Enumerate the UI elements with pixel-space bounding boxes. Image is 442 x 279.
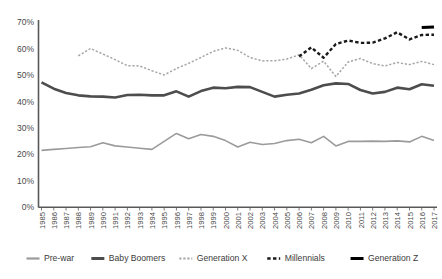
x-tick-label: 2011 [357, 212, 366, 228]
x-tick-label: 2013 [381, 212, 390, 229]
x-tick-label: 1986 [50, 212, 59, 229]
y-axis-tick-labels: 0%10%20%30%40%50%60%70% [17, 17, 34, 212]
x-tick-label: 2014 [393, 212, 402, 229]
x-tick-label: 2007 [307, 212, 316, 229]
x-tick-label: 1990 [99, 212, 108, 229]
x-tick-label: 1996 [173, 212, 182, 229]
x-tick-label: 1999 [209, 212, 218, 229]
y-tick-label: 0% [22, 202, 35, 212]
series-line-millennials [299, 32, 434, 57]
x-tick-label: 2006 [295, 212, 304, 229]
chart-container: 0%10%20%30%40%50%60%70% 1985198619871988… [0, 0, 442, 279]
x-tick-label: 2003 [258, 212, 267, 229]
line-chart: 0%10%20%30%40%50%60%70% 1985198619871988… [0, 0, 442, 279]
series-line-generation-x [78, 48, 434, 77]
series-lines [42, 27, 435, 150]
series-line-pre-war [42, 133, 435, 150]
y-tick-label: 10% [17, 176, 34, 186]
legend-label-pre-war[interactable]: Pre-war [44, 253, 74, 263]
y-tick-label: 60% [17, 44, 34, 54]
x-tick-label: 2001 [234, 212, 243, 229]
x-tick-label: 1989 [87, 212, 96, 229]
x-tick-label: 2002 [246, 212, 255, 229]
x-tick-label: 2012 [369, 212, 378, 229]
series-line-baby-boomers [42, 82, 435, 97]
legend-label-generation-z[interactable]: Generation Z [368, 253, 418, 263]
x-tick-label: 2000 [222, 212, 231, 229]
y-tick-label: 50% [17, 70, 34, 80]
x-tick-label: 1991 [111, 212, 120, 229]
x-tick-label: 1992 [123, 212, 132, 229]
x-tick-label: 2004 [271, 212, 280, 229]
x-axis-tick-labels: 1985198619871988198919901991199219931994… [38, 207, 440, 229]
legend-label-generation-x[interactable]: Generation X [197, 253, 248, 263]
x-tick-label: 1995 [160, 212, 169, 229]
legend-label-baby-boomers[interactable]: Baby Boomers [109, 253, 165, 263]
x-tick-label: 2017 [430, 212, 439, 229]
x-tick-label: 1987 [62, 212, 71, 229]
y-tick-label: 70% [17, 17, 34, 27]
x-tick-label: 2008 [320, 212, 329, 229]
x-tick-label: 2010 [344, 212, 353, 229]
x-tick-label: 1994 [148, 212, 157, 229]
chart-legend: Pre-warBaby BoomersGeneration XMillennia… [27, 253, 419, 263]
series-line-generation-z [422, 27, 434, 28]
x-tick-label: 1988 [74, 212, 83, 229]
x-tick-label: 2016 [418, 212, 427, 229]
x-tick-label: 1985 [38, 212, 47, 229]
y-tick-label: 20% [17, 149, 34, 159]
x-tick-label: 1998 [197, 212, 206, 229]
x-tick-label: 2005 [283, 212, 292, 229]
x-tick-label: 1993 [136, 212, 145, 229]
y-tick-label: 40% [17, 97, 34, 107]
x-tick-label: 1997 [185, 212, 194, 229]
legend-label-millennials[interactable]: Millennials [285, 253, 325, 263]
x-tick-label: 2009 [332, 212, 341, 229]
x-tick-label: 2015 [406, 212, 415, 229]
y-tick-label: 30% [17, 123, 34, 133]
